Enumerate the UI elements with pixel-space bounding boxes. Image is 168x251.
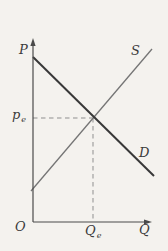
- equilibrium-quantity-label: Qe: [85, 224, 100, 237]
- x-axis-label: Q: [139, 223, 150, 236]
- y-axis-label: P: [19, 43, 28, 56]
- equilibrium-quantity-main: Q: [85, 223, 96, 238]
- equilibrium-price-label: pe: [12, 108, 25, 121]
- supply-demand-diagram: P S pe D O Qe Q: [0, 0, 168, 251]
- demand-curve-label: D: [139, 146, 149, 159]
- origin-label: O: [15, 220, 26, 233]
- equilibrium-quantity-sub: e: [97, 231, 102, 240]
- diagram-canvas: [0, 0, 168, 251]
- supply-curve: [31, 49, 152, 191]
- equilibrium-price-main: p: [12, 107, 20, 122]
- equilibrium-price-sub: e: [21, 115, 26, 124]
- supply-curve-label: S: [131, 44, 140, 57]
- y-axis-arrow-icon: [30, 38, 35, 46]
